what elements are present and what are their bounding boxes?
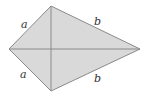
label-upper-right-side: b xyxy=(94,15,101,28)
kite-diagram: a a b b xyxy=(0,0,150,93)
label-lower-right-side: b xyxy=(94,72,101,85)
label-lower-left-side: a xyxy=(20,68,27,81)
label-upper-left-side: a xyxy=(21,18,28,31)
